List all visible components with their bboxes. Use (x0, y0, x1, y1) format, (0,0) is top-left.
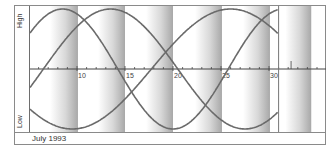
month-label: July 1993 (32, 134, 66, 143)
low-label: Low (16, 115, 23, 128)
svg-text:30: 30 (270, 72, 278, 79)
chart-svg: 1015202530 (30, 6, 326, 132)
biorhythm-chart: High Low 1015202530 July 1993 (14, 5, 326, 145)
svg-text:10: 10 (78, 72, 86, 79)
footer: July 1993 (15, 132, 325, 145)
y-label-column: High Low (15, 6, 30, 132)
high-label: High (16, 14, 23, 28)
plot-area: 1015202530 (30, 6, 326, 132)
svg-text:15: 15 (126, 72, 134, 79)
